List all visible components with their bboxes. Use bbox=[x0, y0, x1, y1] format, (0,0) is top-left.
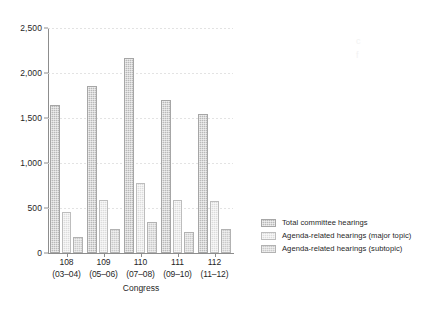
bar-group bbox=[161, 28, 194, 253]
bar bbox=[136, 183, 146, 253]
y-axis-tick-label: 1,000 bbox=[20, 158, 48, 168]
bar bbox=[198, 114, 208, 253]
scan-artifact-2: f bbox=[356, 50, 359, 60]
bar-group bbox=[87, 28, 120, 253]
x-axis-tick-label: 111(09–10) bbox=[159, 257, 196, 280]
congress-years: (11–12) bbox=[196, 269, 233, 281]
y-axis-tick-label: 500 bbox=[28, 203, 48, 213]
bar-group bbox=[124, 28, 157, 253]
legend-item: Total committee hearings bbox=[261, 216, 411, 229]
bar-group bbox=[198, 28, 231, 253]
bar bbox=[99, 200, 109, 253]
bar bbox=[161, 100, 171, 253]
congress-years: (09–10) bbox=[159, 269, 196, 281]
bar bbox=[110, 229, 120, 253]
y-axis-tick-label: 2,500 bbox=[20, 23, 48, 33]
legend-label: Total committee hearings bbox=[282, 218, 368, 227]
x-axis-tick-label: 112(11–12) bbox=[196, 257, 233, 280]
x-axis-tick-label: 108(03–04) bbox=[48, 257, 85, 280]
bar bbox=[184, 232, 194, 253]
y-axis-tick-label: 0 bbox=[37, 248, 48, 258]
x-axis-tick-label: 110(07–08) bbox=[122, 257, 159, 280]
congress-years: (03–04) bbox=[48, 269, 85, 281]
bar bbox=[50, 105, 60, 253]
chart-legend: Total committee hearingsAgenda-related h… bbox=[261, 216, 411, 255]
congress-number: 111 bbox=[159, 257, 196, 269]
x-axis-tick-label: 109(05–06) bbox=[85, 257, 122, 280]
y-axis-tick-label: 1,500 bbox=[20, 113, 48, 123]
congress-number: 112 bbox=[196, 257, 233, 269]
legend-label: Agenda-related hearings (major topic) bbox=[282, 231, 411, 240]
legend-swatch bbox=[261, 232, 276, 240]
bar bbox=[62, 212, 72, 253]
legend-label: Agenda-related hearings (subtopic) bbox=[282, 244, 402, 253]
legend-item: Agenda-related hearings (major topic) bbox=[261, 229, 411, 242]
congress-number: 108 bbox=[48, 257, 85, 269]
legend-item: Agenda-related hearings (subtopic) bbox=[261, 242, 411, 255]
bar bbox=[221, 229, 231, 253]
bar bbox=[210, 201, 220, 253]
bar-chart-figure: c f 05001,0001,5002,0002,500 108(03–04)1… bbox=[0, 0, 425, 309]
legend-swatch bbox=[261, 245, 276, 253]
scan-artifact: c bbox=[356, 36, 361, 46]
y-axis-tick-label: 2,000 bbox=[20, 68, 48, 78]
legend-swatch bbox=[261, 219, 276, 227]
congress-years: (05–06) bbox=[85, 269, 122, 281]
bar bbox=[73, 237, 83, 253]
bar bbox=[147, 222, 157, 254]
plot-area: 05001,0001,5002,0002,500 bbox=[48, 28, 233, 253]
bar bbox=[87, 86, 97, 253]
bar-group bbox=[50, 28, 83, 253]
bar bbox=[124, 58, 134, 253]
bar bbox=[173, 200, 183, 253]
congress-number: 109 bbox=[85, 257, 122, 269]
congress-years: (07–08) bbox=[122, 269, 159, 281]
congress-number: 110 bbox=[122, 257, 159, 269]
x-axis-title: Congress bbox=[48, 283, 234, 293]
